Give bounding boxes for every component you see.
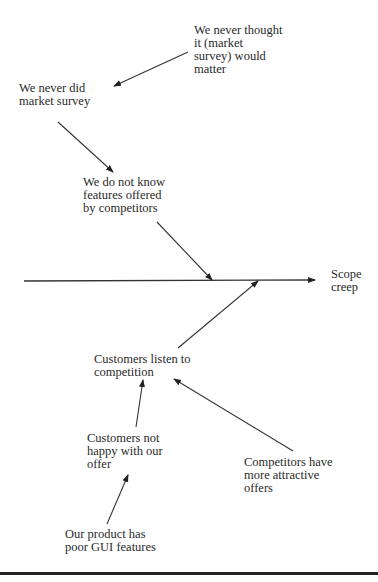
cause-poor-gui: Our product has poor GUI features xyxy=(65,528,156,554)
cause-attractive: Competitors have more attractive offers xyxy=(244,456,333,495)
arrow-poor-gui-to-not-happy xyxy=(107,475,128,524)
arrow-not-happy-to-listen xyxy=(136,380,143,427)
arrow-never-thought-to-never-did xyxy=(114,52,188,86)
arrow-attractive-to-listen xyxy=(174,379,293,451)
cause-listen: Customers listen to competition xyxy=(94,353,191,379)
cause-never-did: We never did market survey xyxy=(19,82,90,108)
arrow-never-did-to-dont-know xyxy=(58,122,113,172)
effect-scope-creep: Scope creep xyxy=(331,268,362,294)
cause-dont-know: We do not know features offered by compe… xyxy=(83,176,165,215)
arrow-listen-to-spine xyxy=(178,281,258,348)
spine-arrow xyxy=(24,280,315,281)
arrow-dont-know-to-spine xyxy=(157,222,212,280)
cause-never-thought: We never thought it (market survey) woul… xyxy=(194,24,283,76)
cause-not-happy: Customers not happy with our offer xyxy=(87,432,163,471)
bottom-rule xyxy=(0,572,378,575)
